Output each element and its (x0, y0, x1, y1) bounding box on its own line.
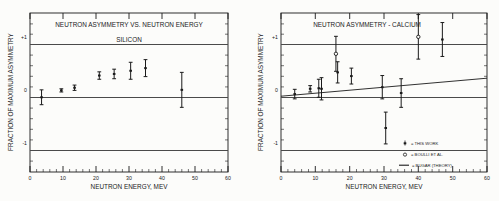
x-tick-label: 0 (29, 175, 32, 181)
data-point (60, 89, 63, 91)
data-point (400, 92, 403, 94)
reference-lines (30, 45, 228, 151)
data-point (320, 88, 323, 90)
reference-lines (281, 45, 487, 151)
data-point (73, 87, 76, 89)
y-tick-label: 0 (24, 87, 27, 93)
x-tick-label: 40 (415, 175, 421, 181)
data-point (129, 70, 132, 72)
x-tick-label: 60 (225, 175, 231, 181)
panel-title-line2: SILICON (116, 36, 142, 43)
y-tick-label: 0 (275, 87, 278, 93)
x-axis-label: NEUTRON ENERGY, MEV (91, 183, 169, 190)
data-point (350, 75, 353, 77)
theory-curve (281, 78, 487, 96)
y-tick-label: +1 (272, 34, 278, 40)
data-point (113, 73, 116, 75)
data-point (334, 52, 337, 55)
data-point (317, 87, 320, 89)
silicon-plot: NEUTRON ASYMMETRY VS. NEUTRON ENERGY SIL… (0, 0, 249, 201)
two-panel-figure: NEUTRON ASYMMETRY VS. NEUTRON ENERGY SIL… (0, 0, 499, 201)
data-point (309, 88, 312, 90)
legend: = THIS WORK = BOULLI ET AL. = BUGAR (THE… (399, 141, 452, 168)
data-point (144, 67, 147, 69)
x-tick-label: 50 (192, 175, 198, 181)
y-axis-label: FRACTION OF MAXIMUM ASYMMETRY (7, 32, 14, 150)
panel-silicon: NEUTRON ASYMMETRY VS. NEUTRON ENERGY SIL… (0, 0, 249, 201)
panel-title-line1: NEUTRON ASYMMETRY - CALCIUM (313, 21, 421, 28)
y-tick-labels: +10-1 (272, 34, 278, 146)
x-tick-label: 20 (347, 175, 353, 181)
panel-calcium: NEUTRON ASYMMETRY - CALCIUM NEUTRON ENER… (249, 0, 499, 201)
data-series-this-work (293, 23, 444, 144)
y-tick-label: +1 (21, 34, 27, 40)
y-tick-label: -1 (22, 140, 27, 146)
x-tick-label: 30 (126, 175, 132, 181)
legend-item-boulli: = BOULLI ET AL. (403, 152, 443, 157)
data-point (293, 93, 296, 95)
legend-label-bugar-theory: = BUGAR (THEORY) (412, 163, 452, 168)
data-point (384, 127, 387, 129)
data-point (417, 35, 420, 38)
x-tick-label: 10 (60, 175, 66, 181)
theory-line-bugar (281, 78, 487, 96)
legend-item-bugar-theory: = BUGAR (THEORY) (399, 163, 452, 168)
x-tick-labels: 0102030405060 (280, 175, 490, 181)
x-tick-label: 10 (312, 175, 318, 181)
data-point (441, 39, 444, 41)
y-axis-label: FRACTION OF MAXIMUM ASYMMETRY (257, 32, 264, 150)
plot-frame (281, 13, 487, 172)
data-series-this-work (40, 60, 184, 108)
y-tick-labels: +10-1 (21, 34, 27, 146)
x-tick-label: 30 (381, 175, 387, 181)
calcium-plot: NEUTRON ASYMMETRY - CALCIUM NEUTRON ENER… (249, 0, 499, 201)
x-tick-label: 60 (484, 175, 490, 181)
x-tick-labels: 0102030405060 (29, 175, 231, 181)
x-tick-label: 20 (93, 175, 99, 181)
x-tick-label: 50 (450, 175, 456, 181)
legend-label-this-work: = THIS WORK (411, 141, 438, 146)
x-tick-label: 40 (159, 175, 165, 181)
data-point (381, 86, 384, 88)
x-major-ticks (281, 13, 487, 172)
data-point (40, 96, 43, 98)
y-tick-label: -1 (273, 140, 278, 146)
data-point (98, 75, 101, 77)
x-axis-label: NEUTRON ENERGY, MEV (346, 183, 424, 190)
panel-title-line1: NEUTRON ASYMMETRY VS. NEUTRON ENERGY (55, 21, 203, 28)
data-point (181, 89, 184, 91)
legend-label-boulli: = BOULLI ET AL. (411, 152, 443, 157)
x-tick-label: 0 (280, 175, 283, 181)
legend-item-this-work: = THIS WORK (404, 141, 439, 147)
